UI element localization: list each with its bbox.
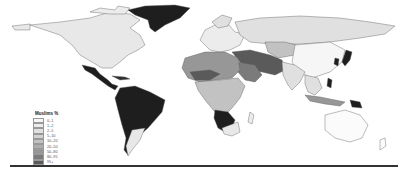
region-papua <box>350 100 362 108</box>
region-indonesia <box>305 95 345 106</box>
region-australia <box>325 110 368 142</box>
region-alaska <box>12 24 30 30</box>
region-south-america <box>115 86 165 155</box>
legend-label: 95+ <box>47 160 53 164</box>
legend-label: 20–50 <box>47 145 58 149</box>
region-southeast-asia <box>305 75 322 95</box>
region-arctic-islands <box>90 6 130 14</box>
legend-label: 1–2 <box>47 124 53 128</box>
legend-label: 80–95 <box>47 155 58 159</box>
region-north-america <box>30 12 145 68</box>
region-russia <box>235 16 395 44</box>
map-legend: Muslims % 0–1 1–2 2–5 5–10 10–20 20–50 5… <box>33 111 73 165</box>
legend-label: 5–10 <box>47 134 55 138</box>
region-central-america <box>82 65 118 90</box>
legend-label: 2–5 <box>47 129 53 133</box>
legend-row: 95+ <box>33 160 73 165</box>
region-philippines <box>327 78 332 88</box>
region-central-africa <box>195 78 245 115</box>
region-new-zealand <box>380 138 386 150</box>
bottom-rule <box>10 165 398 167</box>
legend-swatch <box>33 160 44 165</box>
legend-label: 0–1 <box>47 119 53 123</box>
legend-label: 50–80 <box>47 150 58 154</box>
legend-label: 10–20 <box>47 139 58 143</box>
region-madagascar <box>248 112 254 124</box>
legend-title: Muslims % <box>35 111 73 116</box>
region-caribbean <box>112 76 130 80</box>
